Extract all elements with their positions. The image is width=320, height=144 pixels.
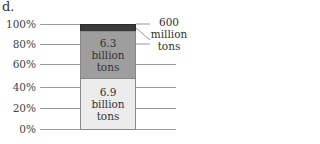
annotation-600-million: 600 million tons (150, 16, 188, 52)
